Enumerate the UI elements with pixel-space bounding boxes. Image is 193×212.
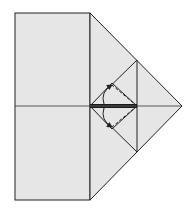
left-rectangle (15, 13, 90, 200)
origami-diagram (0, 0, 193, 212)
